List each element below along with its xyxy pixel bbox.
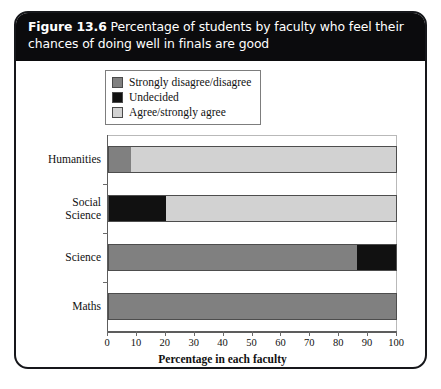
x-axis-tick	[136, 331, 137, 336]
y-axis-category-label: Science	[21, 251, 101, 264]
x-axis-tick-label: 90	[362, 337, 373, 348]
legend-swatch-icon	[112, 107, 123, 118]
legend-item-strongly-disagree: Strongly disagree/disagree	[112, 75, 251, 90]
x-axis-tick-label: 60	[275, 337, 286, 348]
x-axis-tick-label: 50	[246, 337, 257, 348]
x-axis-title: Percentage in each faculty	[16, 353, 427, 365]
bar-segment[interactable]	[131, 146, 397, 173]
x-axis-tick-label: 20	[160, 337, 171, 348]
x-axis-tick-label: 70	[304, 337, 315, 348]
legend-item-label: Agree/strongly agree	[129, 107, 226, 118]
legend-item-agree: Agree/strongly agree	[112, 105, 251, 120]
legend-item-undecided: Undecided	[112, 90, 251, 105]
x-axis-tick	[107, 331, 108, 336]
figure-card: Figure 13.6 Percentage of students by fa…	[14, 11, 427, 369]
bar-row	[108, 233, 397, 282]
y-axis-tick	[103, 282, 108, 283]
bar-segment[interactable]	[357, 244, 397, 271]
y-axis-tick	[103, 233, 108, 234]
x-axis-tick-label: 100	[388, 337, 404, 348]
x-axis-tick-label: 80	[333, 337, 344, 348]
legend-item-label: Undecided	[129, 92, 179, 103]
x-axis-tick-label: 30	[188, 337, 199, 348]
x-axis-tick	[367, 331, 368, 336]
bar-segment[interactable]	[108, 293, 397, 320]
x-axis-tick-label: 40	[217, 337, 228, 348]
x-axis-tick	[338, 331, 339, 336]
chart-legend: Strongly disagree/disagree Undecided Agr…	[105, 70, 261, 125]
bar-segment[interactable]	[108, 244, 357, 271]
legend-swatch-icon	[112, 77, 123, 88]
y-axis-category-labels: HumanitiesSocialScienceScienceMaths	[21, 135, 101, 331]
stacked-bar[interactable]	[108, 146, 397, 173]
stacked-bar[interactable]	[108, 244, 397, 271]
page-title: Figure 13.6 Percentage of students by fa…	[28, 19, 417, 52]
bar-row	[108, 184, 397, 233]
x-axis-tick	[396, 331, 397, 336]
y-axis-category-label: Humanities	[21, 153, 101, 166]
x-axis-tick	[223, 331, 224, 336]
y-axis-category-label: SocialScience	[21, 196, 101, 221]
stacked-bar[interactable]	[108, 293, 397, 320]
bar-row	[108, 135, 397, 184]
legend-item-label: Strongly disagree/disagree	[129, 77, 251, 88]
plot-area	[107, 135, 397, 331]
bar-segment[interactable]	[108, 146, 131, 173]
x-axis-tick	[252, 331, 253, 336]
figure-number: Figure 13.6	[28, 19, 107, 34]
bar-segment[interactable]	[108, 195, 166, 222]
bar-segment[interactable]	[166, 195, 397, 222]
legend-swatch-icon	[112, 92, 123, 103]
figure-title-banner: Figure 13.6 Percentage of students by fa…	[14, 11, 427, 61]
x-axis-tick-label: 10	[131, 337, 142, 348]
x-axis-tick	[194, 331, 195, 336]
y-axis-category-label: Maths	[21, 300, 101, 313]
x-axis-tick	[280, 331, 281, 336]
x-axis-tick	[309, 331, 310, 336]
bar-row	[108, 282, 397, 331]
x-axis-tick-label: 0	[104, 337, 109, 348]
x-axis-tick	[165, 331, 166, 336]
stacked-bar[interactable]	[108, 195, 397, 222]
y-axis-tick	[103, 184, 108, 185]
